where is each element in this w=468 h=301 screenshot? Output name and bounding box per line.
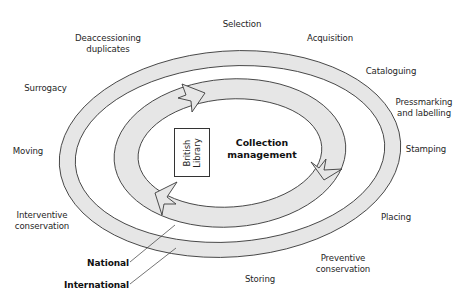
label-line: Placing bbox=[371, 212, 421, 223]
international-leader-line bbox=[130, 248, 176, 284]
label-pressmarking: Pressmarking and labelling bbox=[389, 97, 459, 119]
label-line: Interventive bbox=[7, 210, 77, 221]
label-cataloguing: Cataloguing bbox=[356, 66, 426, 77]
british-library-label: British Library bbox=[182, 138, 202, 167]
library-label-line: Library bbox=[192, 138, 202, 167]
label-acquisition: Acquisition bbox=[295, 33, 365, 44]
label-line: Storing bbox=[235, 274, 285, 285]
label-moving: Moving bbox=[8, 146, 48, 157]
label-deaccessioning-duplicates: Deaccessioning duplicates bbox=[68, 33, 148, 55]
british-label-line: British bbox=[182, 138, 192, 167]
british-library-box: British Library bbox=[174, 128, 210, 177]
label-line: Acquisition bbox=[295, 33, 365, 44]
label-national: National bbox=[84, 258, 129, 269]
label-interventive-conservation: Interventive conservation bbox=[7, 210, 77, 232]
label-placing: Placing bbox=[371, 212, 421, 223]
label-storing: Storing bbox=[235, 274, 285, 285]
center-title-line2: management bbox=[222, 149, 302, 161]
label-stamping: Stamping bbox=[396, 144, 456, 155]
label-line: National bbox=[87, 258, 129, 268]
label-line: Pressmarking bbox=[389, 97, 459, 108]
label-surrogacy: Surrogacy bbox=[18, 83, 73, 94]
center-title-line1: Collection bbox=[222, 137, 302, 149]
center-title: Collection management bbox=[222, 137, 302, 161]
label-selection: Selection bbox=[207, 19, 277, 30]
label-line: Selection bbox=[207, 19, 277, 30]
label-line: Stamping bbox=[396, 144, 456, 155]
label-preventive-conservation: Preventive conservation bbox=[308, 253, 378, 275]
label-line: Deaccessioning bbox=[68, 33, 148, 44]
label-line: Preventive bbox=[308, 253, 378, 264]
label-line: and labelling bbox=[389, 108, 459, 119]
label-line: conservation bbox=[7, 221, 77, 232]
label-line: conservation bbox=[308, 264, 378, 275]
label-line: International bbox=[64, 280, 129, 290]
label-international: International bbox=[64, 280, 129, 291]
label-line: duplicates bbox=[68, 44, 148, 55]
label-line: Cataloguing bbox=[356, 66, 426, 77]
label-line: Surrogacy bbox=[18, 83, 73, 94]
label-line: Moving bbox=[8, 146, 48, 157]
